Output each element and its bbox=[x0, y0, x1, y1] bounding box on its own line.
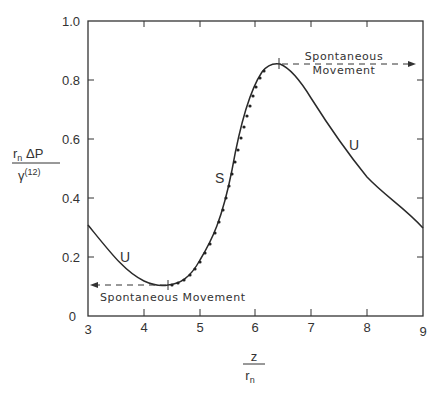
region-label-stable: S bbox=[215, 170, 224, 186]
y-axis-title: rn ΔP γ(12) bbox=[12, 146, 60, 183]
svg-text:γ(12): γ(12) bbox=[18, 167, 41, 183]
x-axis-title: z rn bbox=[243, 349, 265, 385]
x-tick-label: 8 bbox=[363, 320, 370, 335]
y-axis-labels: 0 0.2 0.4 0.6 0.8 1.0 bbox=[62, 14, 80, 324]
x-tick-label: 6 bbox=[251, 320, 258, 335]
y-tick-label: 0.6 bbox=[62, 132, 80, 147]
chart-canvas: 0 0.2 0.4 0.6 0.8 1.0 3 4 5 6 7 8 9 bbox=[0, 0, 443, 396]
ylabel-sup-12: (12) bbox=[25, 167, 41, 177]
spontaneous-movement-high-label-2: Movement bbox=[312, 64, 375, 77]
y-tick-label: 0.8 bbox=[62, 73, 80, 88]
svg-text:rn ΔP: rn ΔP bbox=[13, 146, 43, 163]
y-tick-label: 0.2 bbox=[62, 250, 80, 265]
x-tick-label: 3 bbox=[84, 322, 91, 337]
x-tick-label: 5 bbox=[196, 320, 203, 335]
y-tick-label: 0.4 bbox=[62, 191, 80, 206]
region-label-unstable-right: U bbox=[349, 137, 359, 153]
y-tick-label: 0 bbox=[69, 309, 76, 324]
x-tick-label: 7 bbox=[307, 320, 314, 335]
spontaneous-movement-low-label: Spontaneous Movement bbox=[100, 291, 246, 304]
xlabel-z: z bbox=[251, 349, 258, 364]
ylabel-delta-p: ΔP bbox=[22, 146, 43, 161]
y-axis-ticks bbox=[88, 80, 423, 257]
spontaneous-arrow-low bbox=[90, 282, 166, 288]
x-tick-label: 9 bbox=[419, 324, 426, 339]
y-tick-label: 1.0 bbox=[62, 14, 80, 29]
x-tick-label: 4 bbox=[140, 320, 147, 335]
region-label-unstable-left: U bbox=[120, 249, 130, 265]
svg-text:rn: rn bbox=[245, 368, 254, 385]
x-axis-labels: 3 4 5 6 7 8 9 bbox=[84, 320, 426, 339]
pressure-curve bbox=[88, 64, 423, 286]
spontaneous-movement-high-label-1: Spontaneous bbox=[305, 50, 384, 63]
xlabel-sub-n: n bbox=[250, 375, 255, 385]
